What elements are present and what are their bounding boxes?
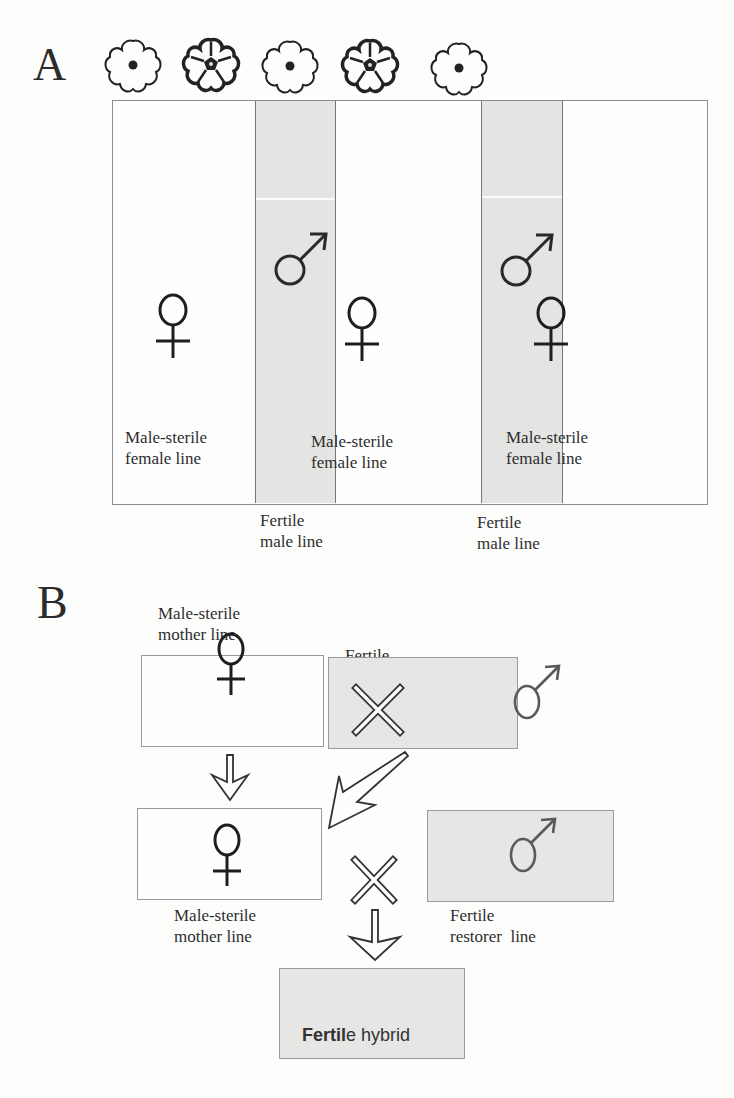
cross-symbol-icon bbox=[355, 860, 393, 900]
row-label-female-3: Male-sterile female line bbox=[506, 427, 588, 469]
label-line: male line bbox=[260, 531, 323, 552]
row-label-female-2: Male-sterile female line bbox=[311, 431, 393, 473]
label-line: Male-sterile bbox=[311, 431, 393, 452]
female-symbol-icon bbox=[534, 298, 568, 361]
row-label-female-1: Male-sterile female line bbox=[125, 427, 207, 469]
female-symbol-icon bbox=[345, 298, 379, 361]
cross-symbol-icon bbox=[356, 688, 400, 732]
field-symbols bbox=[0, 0, 734, 560]
female-symbol-icon bbox=[217, 634, 245, 695]
label-line: Fertile bbox=[477, 512, 540, 533]
label-line: female line bbox=[506, 448, 588, 469]
label-line: Fertile bbox=[260, 510, 323, 531]
male-symbol-icon bbox=[276, 234, 326, 284]
diagonal-arrow-icon bbox=[329, 752, 408, 828]
label-line: female line bbox=[125, 448, 207, 469]
female-symbol-icon bbox=[213, 825, 241, 886]
label-line: male line bbox=[477, 533, 540, 554]
down-arrow-icon bbox=[350, 910, 400, 960]
male-symbol-icon bbox=[515, 666, 559, 718]
cross-scheme bbox=[0, 560, 734, 1098]
label-line: Male-sterile bbox=[506, 427, 588, 448]
male-symbol-icon bbox=[511, 819, 555, 871]
female-symbol-icon bbox=[156, 295, 190, 358]
label-line: Male-sterile bbox=[125, 427, 207, 448]
row-label-male-1: Fertile male line bbox=[260, 510, 323, 552]
male-symbol-icon bbox=[502, 235, 552, 285]
down-arrow-icon bbox=[212, 755, 248, 800]
row-label-male-2: Fertile male line bbox=[477, 512, 540, 554]
label-line: female line bbox=[311, 452, 393, 473]
